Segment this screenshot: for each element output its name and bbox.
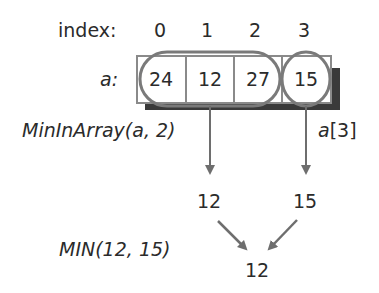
array-cell-2: 27 [246, 70, 270, 89]
arrow-right-to-min [271, 220, 297, 247]
array-index: [3] [330, 119, 357, 141]
array-cell-1: 12 [198, 70, 222, 89]
min-result-value: 12 [245, 261, 269, 280]
index-label: index: [58, 21, 116, 40]
array-cell-0: 24 [149, 70, 173, 89]
arrow-left-to-min [218, 221, 244, 247]
array-cell-3: 15 [294, 70, 318, 89]
index-1: 1 [201, 21, 213, 40]
diagram-graphics [0, 0, 379, 293]
min-call-label: MIN(12, 15) [59, 240, 170, 259]
index-0: 0 [154, 21, 166, 40]
index-2: 2 [249, 21, 261, 40]
last-element-label: a[3] [318, 121, 357, 140]
index-3: 3 [298, 21, 310, 40]
last-element-value: 15 [293, 192, 317, 211]
recursive-call-label: MinInArray(a, 2) [22, 121, 176, 140]
array-name: a [318, 119, 330, 141]
recursive-result-value: 12 [197, 192, 221, 211]
array-label: a: [100, 70, 118, 89]
